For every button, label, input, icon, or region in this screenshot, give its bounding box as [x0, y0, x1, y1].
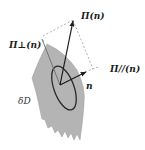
dashed-line-pi-to-perp	[41, 20, 73, 37]
dashed-line-parallel-extension	[85, 67, 98, 72]
dashed-line-pi-to-parallel	[73, 20, 93, 69]
label-boundary: δD	[18, 96, 31, 106]
label-normal: n	[86, 81, 93, 91]
label-pi-parallel: Π//(n)	[109, 64, 140, 74]
stress-decomposition-diagram: Π(n) Π⊥(n) Π//(n) n δD	[0, 0, 145, 150]
label-pi-perp: Π⊥(n)	[8, 40, 41, 50]
label-pi: Π(n)	[80, 11, 105, 21]
surface-element	[32, 44, 84, 140]
